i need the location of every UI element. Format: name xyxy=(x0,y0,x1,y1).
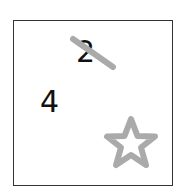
star-outline-icon xyxy=(101,114,161,174)
card-frame: 2 4 xyxy=(13,20,173,186)
strike-through-icon xyxy=(69,35,119,75)
number-four: 4 xyxy=(40,87,59,117)
